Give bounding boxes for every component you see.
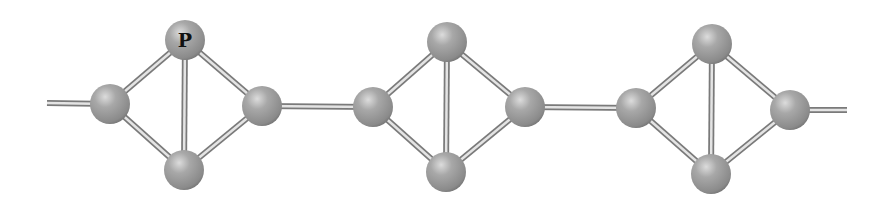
atom-u3_right <box>770 90 810 130</box>
atom-u3_left <box>616 88 656 128</box>
atom-u2_left <box>353 87 393 127</box>
polymer-chain-diagram: P <box>0 0 887 202</box>
atom-u2_right <box>505 87 545 127</box>
atom-u1_right <box>242 86 282 126</box>
atom-u2_top <box>427 22 467 62</box>
atoms-layer <box>90 20 810 194</box>
atom-u3_bottom <box>691 154 731 194</box>
atom-u1_bottom <box>164 150 204 190</box>
atom-label: P <box>178 29 192 51</box>
atom-u3_top <box>692 24 732 64</box>
atom-u1_left <box>90 84 130 124</box>
atom-u2_bottom <box>426 152 466 192</box>
labels-layer: P <box>178 29 192 51</box>
